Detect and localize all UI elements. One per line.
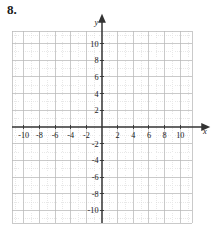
coordinate-plane: -10-8-6-4-2246810 108642-2-4-6-8-10 xy — [0, 0, 219, 239]
svg-text:8: 8 — [94, 56, 98, 65]
svg-text:2: 2 — [116, 131, 120, 140]
svg-text:-10: -10 — [88, 206, 99, 215]
axis-names: xy — [94, 17, 208, 136]
svg-text:6: 6 — [147, 131, 151, 140]
svg-text:2: 2 — [94, 106, 98, 115]
svg-text:10: 10 — [176, 131, 184, 140]
svg-text:4: 4 — [131, 131, 135, 140]
svg-text:y: y — [94, 17, 99, 27]
svg-text:-8: -8 — [36, 131, 43, 140]
svg-text:-4: -4 — [67, 131, 74, 140]
svg-text:x: x — [202, 126, 207, 136]
svg-text:-6: -6 — [52, 131, 59, 140]
svg-text:10: 10 — [90, 40, 98, 49]
svg-text:-6: -6 — [92, 173, 99, 182]
svg-text:6: 6 — [94, 73, 98, 82]
svg-text:-2: -2 — [92, 140, 99, 149]
svg-text:-10: -10 — [18, 131, 29, 140]
svg-text:-4: -4 — [92, 156, 99, 165]
svg-text:-2: -2 — [83, 131, 90, 140]
svg-text:8: 8 — [163, 131, 167, 140]
svg-text:-8: -8 — [92, 190, 99, 199]
coordinate-grid-svg: -10-8-6-4-2246810 108642-2-4-6-8-10 xy — [0, 0, 219, 239]
svg-text:4: 4 — [94, 90, 98, 99]
